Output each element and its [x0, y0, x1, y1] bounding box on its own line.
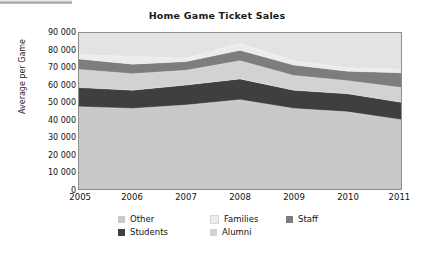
- area-band-other: [79, 100, 401, 189]
- legend-label-students: Students: [130, 227, 168, 237]
- y-tick-label: 90 000: [48, 28, 76, 37]
- y-tick-label: 70 000: [48, 63, 76, 72]
- legend-label-other: Other: [130, 214, 154, 224]
- legend-label-staff: Staff: [298, 214, 318, 224]
- legend-label-families: Families: [224, 214, 258, 224]
- x-tick-label: 2007: [175, 192, 197, 202]
- legend-label-alumni: Alumni: [222, 227, 252, 237]
- y-axis-tick-labels: 90 00080 00070 00060 00050 00040 00030 0…: [22, 26, 76, 194]
- y-tick-label: 80 000: [48, 45, 76, 54]
- y-tick-label: 10 000: [48, 168, 76, 177]
- y-tick-label: 50 000: [48, 98, 76, 107]
- legend-item-staff: Staff: [286, 214, 346, 224]
- stacked-area-svg: [79, 33, 401, 189]
- x-tick-label: 2010: [337, 192, 359, 202]
- legend-row-top: Other Families Staff: [118, 213, 358, 225]
- top-edge-artifact: [0, 0, 72, 4]
- x-tick-label: 2006: [121, 192, 143, 202]
- x-tick-label: 2008: [229, 192, 251, 202]
- x-tick-label: 2009: [283, 192, 305, 202]
- legend-swatch-alumni-icon: [210, 229, 217, 236]
- legend-item-students: Students: [118, 227, 210, 237]
- y-tick-label: 30 000: [48, 133, 76, 142]
- chart-legend: Other Families Staff Students Alumni: [118, 213, 358, 239]
- x-axis-tick-labels: 2005200620072008200920102011: [78, 192, 402, 208]
- x-tick-label: 2005: [69, 192, 91, 202]
- legend-row-bottom: Students Alumni: [118, 226, 358, 238]
- y-tick-label: 60 000: [48, 80, 76, 89]
- legend-swatch-other-icon: [118, 216, 125, 223]
- y-tick-label: 20 000: [48, 150, 76, 159]
- legend-item-other: Other: [118, 214, 210, 224]
- legend-swatch-families-icon: [210, 215, 219, 224]
- legend-item-alumni: Alumni: [210, 227, 286, 237]
- chart-title: Home Game Ticket Sales: [0, 10, 434, 21]
- legend-swatch-students-icon: [118, 229, 125, 236]
- legend-swatch-staff-icon: [286, 216, 293, 223]
- plot-area: [78, 32, 402, 190]
- y-tick-label: 40 000: [48, 115, 76, 124]
- x-tick-label: 2011: [389, 192, 411, 202]
- chart-container: Home Game Ticket Sales Average per Game …: [0, 0, 434, 255]
- legend-item-families: Families: [210, 214, 286, 224]
